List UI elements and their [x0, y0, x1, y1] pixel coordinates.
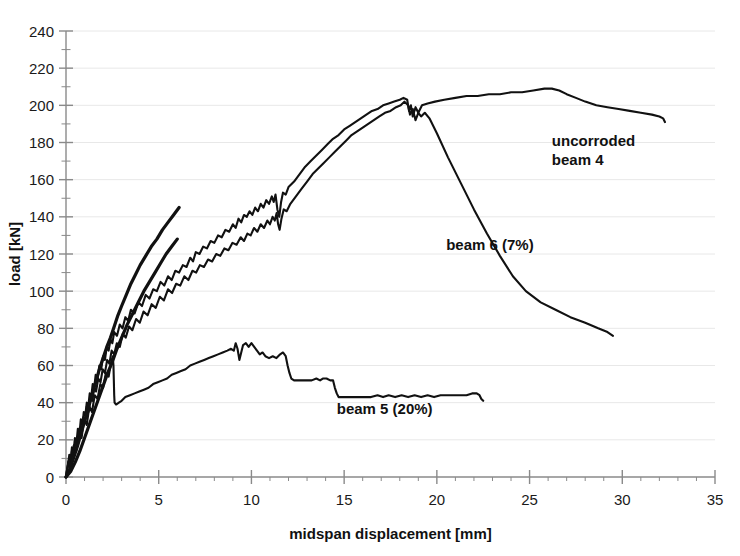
annotation-beam-6-label: beam 6 (7%): [446, 236, 534, 253]
y-tick-label-20: 20: [37, 431, 54, 448]
y-tick-label-240: 240: [29, 23, 54, 40]
chart-container: 0204060801001201401601802002202400510152…: [0, 0, 740, 556]
y-tick-label-0: 0: [46, 469, 54, 486]
load-displacement-chart: 0204060801001201401601802002202400510152…: [0, 0, 740, 556]
y-axis-title: load [kN]: [6, 222, 23, 286]
y-tick-label-180: 180: [29, 134, 54, 151]
x-tick-label-5: 5: [155, 491, 163, 508]
y-tick-label-140: 140: [29, 208, 54, 225]
y-tick-label-200: 200: [29, 97, 54, 114]
chart-background: [0, 0, 740, 556]
y-tick-label-80: 80: [37, 320, 54, 337]
annotation-beam-5-label: beam 5 (20%): [337, 400, 433, 417]
x-tick-label-25: 25: [521, 491, 538, 508]
y-tick-label-120: 120: [29, 246, 54, 263]
y-tick-label-220: 220: [29, 60, 54, 77]
x-tick-label-35: 35: [707, 491, 724, 508]
x-tick-label-20: 20: [429, 491, 446, 508]
y-tick-label-100: 100: [29, 283, 54, 300]
y-tick-label-40: 40: [37, 394, 54, 411]
y-tick-label-60: 60: [37, 357, 54, 374]
x-tick-label-0: 0: [62, 491, 70, 508]
y-tick-label-160: 160: [29, 171, 54, 188]
x-tick-label-10: 10: [243, 491, 260, 508]
x-axis-title: midspan displacement [mm]: [289, 525, 492, 542]
x-tick-label-30: 30: [614, 491, 631, 508]
x-tick-label-15: 15: [336, 491, 353, 508]
